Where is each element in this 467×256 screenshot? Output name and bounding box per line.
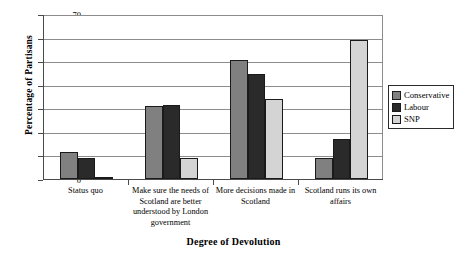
legend-item-snp[interactable]: SNP xyxy=(392,113,449,125)
bar-snp-4 xyxy=(350,40,368,179)
bar-conservative-1 xyxy=(60,152,78,179)
plot-area xyxy=(43,15,383,180)
bar-labour-4 xyxy=(333,139,351,179)
category-label-line: affairs xyxy=(291,197,390,208)
bar-conservative-3 xyxy=(230,60,248,179)
bar-group-3 xyxy=(230,15,283,179)
x-tick-mark-1 xyxy=(128,180,129,185)
y-tick-mark-0 xyxy=(38,180,43,181)
bar-chart: Percentage of Partisans 010203040506070 … xyxy=(0,0,467,256)
y-axis-title: Percentage of Partisans xyxy=(24,10,34,160)
x-axis-title: Degree of Devolution xyxy=(0,236,467,247)
chart-legend: ConservativeLabourSNP xyxy=(388,85,454,129)
bar-conservative-4 xyxy=(315,158,333,179)
legend-label: Labour xyxy=(404,103,429,112)
category-label-line: understood by London xyxy=(121,207,220,218)
bar-group-2 xyxy=(145,15,198,179)
bar-labour-2 xyxy=(163,105,181,179)
category-label-line: Scotland runs its own xyxy=(291,186,390,197)
bar-conservative-2 xyxy=(145,106,163,179)
legend-item-labour[interactable]: Labour xyxy=(392,101,449,113)
bar-labour-1 xyxy=(78,158,96,179)
bar-group-1 xyxy=(60,15,113,179)
legend-label: SNP xyxy=(404,115,420,124)
legend-swatch-conservative xyxy=(392,91,401,100)
bar-snp-3 xyxy=(265,99,283,179)
bar-snp-1 xyxy=(95,177,113,179)
bar-group-4 xyxy=(315,15,368,179)
legend-item-conservative[interactable]: Conservative xyxy=(392,89,449,101)
legend-label: Conservative xyxy=(404,91,449,100)
legend-swatch-snp xyxy=(392,115,401,124)
plot-right-border xyxy=(382,15,383,179)
x-tick-mark-2 xyxy=(213,180,214,185)
x-tick-mark-3 xyxy=(298,180,299,185)
bar-labour-3 xyxy=(248,74,266,179)
legend-swatch-labour xyxy=(392,103,401,112)
category-label-line: government xyxy=(121,218,220,229)
bar-snp-2 xyxy=(180,158,198,179)
x-category-label-4: Scotland runs its ownaffairs xyxy=(291,186,390,207)
